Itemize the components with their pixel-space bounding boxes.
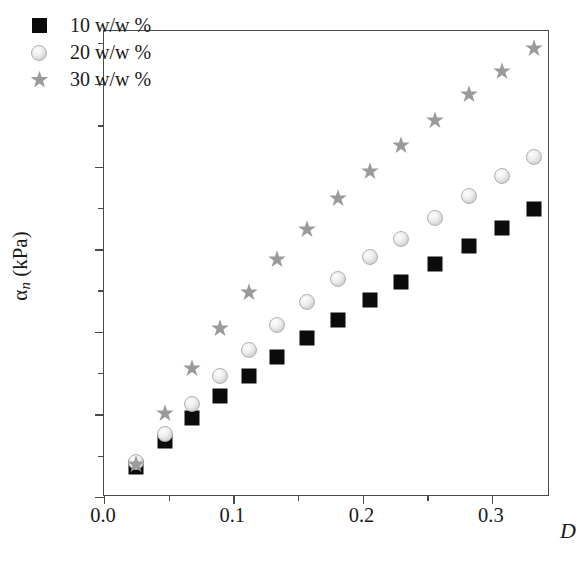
marker-circle — [461, 188, 477, 204]
legend-marker — [18, 18, 60, 33]
marker-star — [30, 70, 49, 89]
data-point — [268, 250, 287, 269]
marker-square — [527, 202, 542, 217]
x-tick-major — [104, 495, 105, 504]
marker-star — [459, 84, 478, 103]
data-point — [330, 271, 346, 287]
data-point — [182, 359, 201, 378]
data-point — [269, 317, 285, 333]
y-tick-minor — [98, 125, 104, 126]
marker-circle — [427, 210, 443, 226]
alpha-subscript: n — [17, 282, 33, 290]
data-point — [427, 257, 442, 272]
x-tick-label: 0.3 — [478, 504, 504, 527]
y-axis-title: αn (kPa) — [8, 231, 35, 300]
data-point — [211, 319, 230, 338]
y-axis-units: (kPa) — [8, 231, 32, 282]
marker-star — [268, 250, 287, 269]
marker-star — [182, 359, 201, 378]
marker-star — [239, 283, 258, 302]
data-point — [494, 168, 510, 184]
marker-circle — [330, 271, 346, 287]
data-point — [270, 349, 285, 364]
data-point — [495, 220, 510, 235]
data-point — [241, 342, 257, 358]
data-point — [155, 403, 174, 422]
marker-circle — [31, 45, 47, 61]
data-point — [493, 61, 512, 80]
data-point — [361, 162, 380, 181]
data-point — [461, 238, 476, 253]
data-point — [392, 136, 411, 155]
data-point — [526, 149, 542, 165]
data-point — [297, 220, 316, 239]
marker-square — [32, 18, 47, 33]
marker-square — [495, 220, 510, 235]
plot-area — [103, 30, 549, 496]
data-point — [459, 84, 478, 103]
data-point — [299, 294, 315, 310]
data-point — [241, 369, 256, 384]
y-tick-major — [95, 414, 104, 415]
data-point — [328, 188, 347, 207]
x-tick-minor — [169, 495, 170, 501]
y-tick-major — [95, 497, 104, 498]
data-point — [393, 231, 409, 247]
marker-square — [330, 313, 345, 328]
marker-circle — [362, 249, 378, 265]
marker-circle — [212, 368, 228, 384]
data-point — [363, 293, 378, 308]
marker-star — [297, 220, 316, 239]
legend-marker — [18, 45, 60, 61]
y-tick-major — [95, 332, 104, 333]
legend-item-3: 30 w/w % — [18, 66, 151, 93]
marker-star — [425, 111, 444, 130]
x-tick-label: 0.2 — [349, 504, 375, 527]
legend-item-2: 20 w/w % — [18, 39, 151, 66]
y-tick-minor — [98, 208, 104, 209]
marker-star — [155, 403, 174, 422]
marker-star — [361, 162, 380, 181]
y-tick-minor — [98, 290, 104, 291]
alpha-symbol: α — [8, 290, 32, 301]
marker-square — [461, 238, 476, 253]
data-point — [394, 275, 409, 290]
marker-circle — [393, 231, 409, 247]
marker-square — [394, 275, 409, 290]
data-point — [461, 188, 477, 204]
marker-star — [392, 136, 411, 155]
marker-star — [525, 38, 544, 57]
marker-star — [211, 319, 230, 338]
x-tick-minor — [298, 495, 299, 501]
marker-star — [493, 61, 512, 80]
data-point — [212, 368, 228, 384]
y-tick-major — [95, 167, 104, 168]
legend: 10 w/w %20 w/w %30 w/w % — [18, 12, 151, 93]
data-point — [525, 38, 544, 57]
marker-square — [241, 369, 256, 384]
data-point — [427, 210, 443, 226]
x-tick-label: 0.0 — [90, 504, 116, 527]
marker-star — [127, 454, 146, 473]
y-tick-minor — [98, 373, 104, 374]
legend-item-1: 10 w/w % — [18, 12, 151, 39]
marker-circle — [241, 342, 257, 358]
legend-label: 10 w/w % — [70, 14, 151, 37]
marker-circle — [269, 317, 285, 333]
data-point — [299, 331, 314, 346]
y-tick-major — [95, 249, 104, 250]
data-point — [184, 396, 200, 412]
y-tick-minor — [98, 456, 104, 457]
x-tick-major — [492, 495, 493, 504]
legend-label: 30 w/w % — [70, 68, 151, 91]
marker-circle — [299, 294, 315, 310]
marker-circle — [184, 396, 200, 412]
data-point — [330, 313, 345, 328]
data-point — [425, 111, 444, 130]
data-point — [362, 249, 378, 265]
marker-star — [328, 188, 347, 207]
marker-square — [363, 293, 378, 308]
data-point — [157, 426, 173, 442]
x-tick-major — [363, 495, 364, 504]
data-point — [127, 454, 146, 473]
